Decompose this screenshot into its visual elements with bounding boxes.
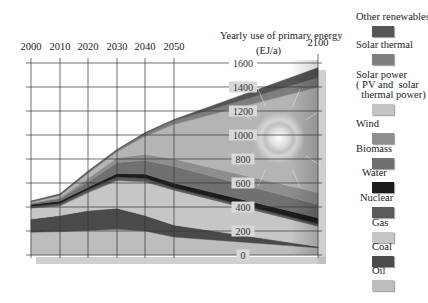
- legend-item: Water: [356, 168, 428, 178]
- y-tick-label: 1600: [229, 58, 257, 69]
- legend-swatch: [372, 54, 394, 65]
- x-tick-label: 2030: [107, 41, 128, 52]
- x-tick-label: 2010: [50, 41, 71, 52]
- x-tick-label: 2050: [164, 41, 185, 52]
- y-tick-label: 0: [237, 250, 250, 261]
- y-tick-label: 800: [232, 154, 255, 165]
- y-tick-label: 1000: [229, 130, 257, 141]
- legend-item: Solar power ( PV and solar thermal power…: [356, 70, 428, 100]
- legend-item: Nuclear: [356, 193, 428, 203]
- y-tick-label: 200: [232, 226, 255, 237]
- legend-label: Gas: [356, 218, 428, 228]
- legend-swatch: [372, 104, 394, 115]
- legend-item: Wind: [356, 119, 428, 129]
- legend-item: Solar thermal: [356, 40, 428, 50]
- legend-label: Solar power ( PV and solar thermal power…: [356, 70, 428, 100]
- legend-label: Oil: [356, 266, 428, 276]
- x-tick-label: 2040: [135, 41, 156, 52]
- y-axis-unit: (EJ/a): [256, 45, 281, 56]
- y-tick-label: 400: [232, 202, 255, 213]
- legend-label: Solar thermal: [356, 40, 428, 50]
- legend-label: Nuclear: [356, 193, 428, 203]
- legend-item: Biomass: [356, 144, 428, 154]
- y-tick-label: 600: [232, 178, 255, 189]
- legend-label: Water: [356, 168, 428, 178]
- legend-label: Biomass: [356, 144, 428, 154]
- legend-swatch: [372, 26, 394, 37]
- y-tick-label: 1200: [229, 106, 257, 117]
- x-tick-label: 2000: [21, 41, 42, 52]
- legend-label: Wind: [356, 119, 428, 129]
- legend-swatch: [372, 280, 394, 291]
- legend-item: Gas: [356, 218, 428, 228]
- y-tick-label: 1400: [229, 82, 257, 93]
- x-tick-label: 2100: [308, 37, 329, 48]
- x-tick-label: 2020: [78, 41, 99, 52]
- legend-label: Coal: [356, 242, 428, 252]
- legend-item: Coal: [356, 242, 428, 252]
- legend-label: Other renewables: [356, 12, 428, 22]
- legend-item: Oil: [356, 266, 428, 276]
- legend-item: Other renewables: [356, 12, 428, 22]
